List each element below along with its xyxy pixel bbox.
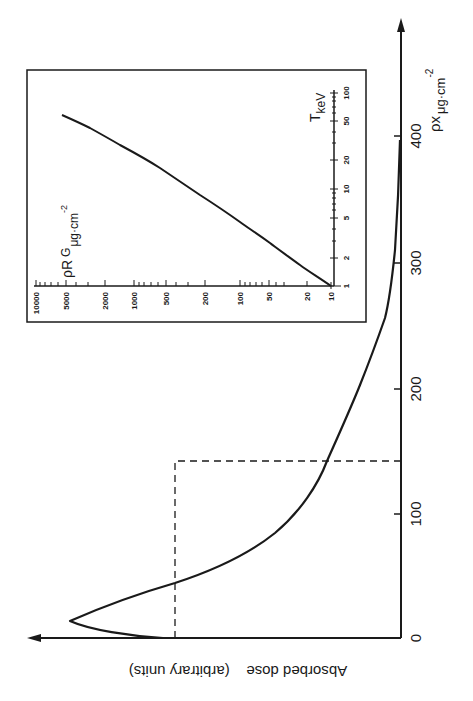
x-tick-0: 0 [407,634,424,642]
t-tick-10: 10 [342,184,351,193]
x-tick-400: 400 [407,123,424,148]
x-tick-200: 200 [407,376,424,401]
t-tick-1: 1 [342,283,351,288]
x-tick-100: 100 [407,501,424,526]
r-tick-200: 200 [201,291,210,305]
r-tick-50: 50 [265,291,274,300]
y-axis-label: Absorbed dose (arbitrary units) [129,663,347,680]
x-axis-unit: μg·cm [433,78,448,114]
r-tick-2000: 2000 [101,291,110,309]
x-axis-symbol: ρx [426,115,443,132]
r-tick-1000: 1000 [130,291,139,309]
r-tick-20: 20 [303,291,312,300]
dose-depth-chart: 0 100 200 300 400 ρxμg·cm-2 Absorbed dos… [0,0,473,701]
dashed-equivalent-box [175,461,401,638]
t-tick-100: 100 [342,86,351,100]
r-tick-10000: 10000 [32,291,41,314]
x-axis-label: ρxμg·cm-2 [424,68,448,132]
x-axis-tick-labels: 0 100 200 300 400 [407,123,424,642]
r-tick-10: 10 [327,291,336,300]
r-axis-unit: μg·cm [67,213,81,247]
x-axis-exponent: -2 [424,68,435,77]
r-axis-subscript: G [59,248,73,257]
t-tick-2: 2 [342,255,351,260]
svg-text:ρxμg·cm-2: ρxμg·cm-2 [424,68,448,132]
inset-plot: 1 2 5 10 20 50 100 TkeV [27,70,366,322]
t-axis-subscript: keV [314,93,328,114]
t-tick-50: 50 [342,116,351,125]
r-tick-500: 500 [162,291,171,305]
t-tick-20: 20 [342,155,351,164]
t-tick-5: 5 [342,215,351,220]
r-axis-symbol: ρR [59,260,75,278]
x-axis-arrow-icon [397,18,405,32]
r-axis-exponent: -2 [59,205,69,213]
r-tick-5000: 5000 [62,291,71,309]
r-tick-100: 100 [236,291,245,305]
y-axis-arrow-icon [27,634,41,642]
x-tick-300: 300 [407,250,424,275]
